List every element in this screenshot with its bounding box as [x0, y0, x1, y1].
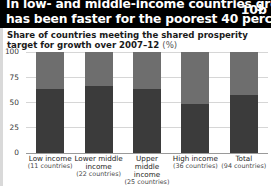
- figure-number-badge: 10b: [241, 3, 267, 17]
- bar-segment-meeting-target[interactable]: [85, 86, 113, 153]
- bar-segment-not-meeting-target[interactable]: [230, 52, 258, 95]
- x-axis-label: Low income(11 countries): [26, 155, 74, 171]
- y-axis-tick-50: 50: [0, 99, 19, 106]
- x-axis-label-count: (94 countries): [220, 163, 268, 171]
- figure-title: In low- and middle-income countries grow…: [6, 0, 228, 27]
- bar-segment-not-meeting-target[interactable]: [36, 52, 64, 89]
- x-axis-label: High income(36 countries): [171, 155, 219, 171]
- x-axis-label-count: (22 countries): [74, 171, 122, 179]
- x-axis-label: Upper middle income(25 countries): [123, 155, 171, 186]
- y-axis-tick-0: 0: [0, 149, 19, 156]
- chart-container: 0255075100 Low income(11 countries)Lower…: [0, 48, 271, 186]
- figure-title-line-1: In low- and middle-income countries grow…: [6, 0, 228, 12]
- x-axis-labels: Low income(11 countries)Lower middle inc…: [26, 155, 268, 186]
- x-axis-label-count: (11 countries): [26, 163, 74, 171]
- x-axis-label: Total(94 countries): [220, 155, 268, 171]
- y-axis-tick-25: 25: [0, 124, 19, 131]
- bar-segment-meeting-target[interactable]: [36, 89, 64, 153]
- bar-segment-not-meeting-target[interactable]: [181, 52, 209, 104]
- bar-segment-not-meeting-target[interactable]: [133, 52, 161, 89]
- plot-area: 0255075100: [26, 52, 268, 153]
- figure-title-line-2: has been faster for the poorest 40 perce…: [6, 12, 228, 27]
- bar-segment-meeting-target[interactable]: [230, 95, 258, 153]
- x-axis-label: Lower middle income(22 countries): [74, 155, 122, 179]
- figure-header-band: In low- and middle-income countries grow…: [0, 0, 271, 28]
- bar-segment-meeting-target[interactable]: [181, 104, 209, 153]
- bar-segment-not-meeting-target[interactable]: [85, 52, 113, 86]
- y-axis-tick-100: 100: [0, 48, 19, 55]
- bar-segment-meeting-target[interactable]: [133, 89, 161, 153]
- x-axis-label-category: Lower middle income: [74, 155, 122, 171]
- y-axis-tick-75: 75: [0, 74, 19, 81]
- x-axis-label-count: (36 countries): [171, 163, 219, 171]
- x-axis-label-category: Upper middle income: [123, 155, 171, 179]
- x-axis-label-count: (25 countries): [123, 179, 171, 186]
